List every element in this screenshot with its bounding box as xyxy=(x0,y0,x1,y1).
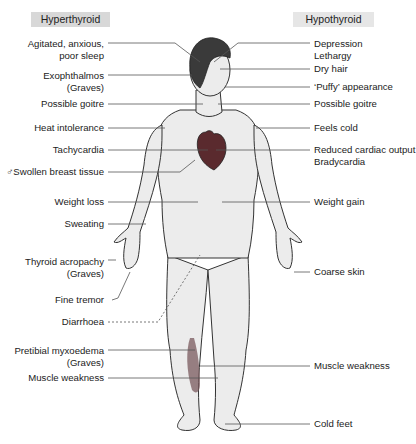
label-agitated: Agitated, anxious, poor sleep xyxy=(28,38,104,61)
hyperthyroid-header: Hyperthyroid xyxy=(31,12,110,27)
label-diarrhoea: Diarrhoea xyxy=(62,316,104,328)
label-line: Thyroid acropachy xyxy=(25,256,104,268)
label-sweating: Sweating xyxy=(65,218,104,230)
label-possible-goitre-hyper: Possible goitre xyxy=(41,98,104,110)
label-line: poor sleep xyxy=(28,50,104,62)
label-puffy-appearance: ‘Puffy’ appearance xyxy=(314,81,393,93)
label-line: Reduced cardiac output xyxy=(314,144,415,156)
hypothyroid-header: Hypothyroid xyxy=(293,12,374,27)
label-swollen-breast-tissue: ♂Swollen breast tissue xyxy=(6,166,104,178)
label-coarse-skin: Coarse skin xyxy=(314,266,365,278)
label-cardiac-output-bradycardia: Reduced cardiac output Bradycardia xyxy=(314,144,415,167)
label-feels-cold: Feels cold xyxy=(314,122,358,134)
label-muscle-weakness-hypo: Muscle weakness xyxy=(314,360,390,372)
label-line: Lethargy xyxy=(314,50,363,62)
label-line: (Graves) xyxy=(25,268,104,280)
label-line: Depression xyxy=(314,38,363,50)
label-depression-lethargy: Depression Lethargy xyxy=(314,38,363,61)
label-muscle-weakness-hyper: Muscle weakness xyxy=(28,372,104,384)
label-pretibial-myxoedema: Pretibial myxoedema (Graves) xyxy=(14,345,104,368)
label-fine-tremor: Fine tremor xyxy=(55,294,104,306)
label-thyroid-acropachy: Thyroid acropachy (Graves) xyxy=(25,256,104,279)
label-cold-feet: Cold feet xyxy=(314,418,352,430)
label-line: Agitated, anxious, xyxy=(28,38,104,50)
label-tachycardia: Tachycardia xyxy=(53,144,104,156)
label-exophthalmos: Exophthalmos (Graves) xyxy=(43,70,104,93)
human-body-outline xyxy=(114,44,302,431)
label-weight-loss: Weight loss xyxy=(55,196,104,208)
label-line: (Graves) xyxy=(14,357,104,369)
label-line: Bradycardia xyxy=(314,156,415,168)
label-dry-hair: Dry hair xyxy=(314,63,348,75)
label-line: (Graves) xyxy=(43,82,104,94)
label-possible-goitre-hypo: Possible goitre xyxy=(314,98,377,110)
label-line: Pretibial myxoedema xyxy=(14,345,104,357)
label-line: Exophthalmos xyxy=(43,70,104,82)
label-heat-intolerance: Heat intolerance xyxy=(34,122,104,134)
label-weight-gain: Weight gain xyxy=(314,196,365,208)
